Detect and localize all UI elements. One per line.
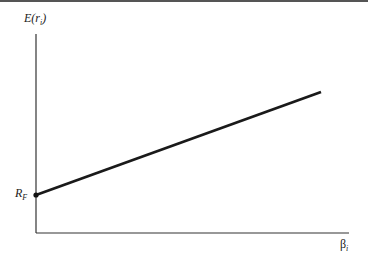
security-market-line (36, 92, 321, 195)
rf-label: RF (15, 186, 27, 202)
chart-canvas (0, 0, 368, 255)
y-axis-label: E(ri) (24, 11, 46, 27)
x-axis-label: βi (340, 237, 348, 253)
rf-intercept-dot (33, 192, 38, 197)
